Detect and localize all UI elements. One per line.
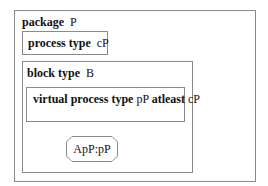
process-instance-label: ApP:pP: [66, 142, 118, 156]
package-keyword: package: [22, 15, 64, 29]
package-header: package P: [22, 15, 77, 29]
atleast-keyword: atleast: [152, 92, 185, 106]
process-type-keyword: process type: [28, 36, 91, 50]
virtual-process-type-header: virtual process type pP atleast cP: [33, 92, 200, 106]
block-type-keyword: block type: [27, 66, 80, 80]
block-type-header: block type B: [27, 66, 94, 80]
block-type-name: B: [86, 66, 94, 80]
process-type-header: process type cP: [28, 36, 109, 50]
virtual-process-type-name: pP: [136, 92, 148, 106]
package-name: P: [70, 15, 77, 29]
process-type-name: cP: [97, 36, 109, 50]
atleast-name: cP: [188, 92, 200, 106]
virtual-process-type-keyword: virtual process type: [33, 92, 133, 106]
